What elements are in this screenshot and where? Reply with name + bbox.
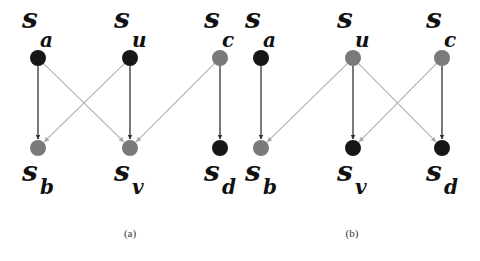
node-label-subscript-v: v — [132, 175, 144, 199]
node-label-subscript-u: u — [355, 28, 370, 52]
node-s-a — [253, 50, 269, 66]
node-label-subscript-v: v — [355, 175, 367, 199]
node-label-s-b: s — [21, 155, 38, 188]
node-label-s-d: s — [203, 155, 220, 188]
node-s-a — [30, 50, 46, 66]
node-s-d — [212, 140, 228, 156]
graph-a: sasuscsbsvsd(a) — [21, 2, 236, 240]
node-label-s-c: s — [425, 2, 442, 35]
node-s-v — [122, 140, 138, 156]
node-label-s-v: s — [336, 155, 353, 188]
node-label-s-a: s — [244, 2, 261, 35]
node-s-u — [122, 50, 138, 66]
edge-c-to-v — [136, 64, 214, 142]
node-label-subscript-a: a — [40, 28, 53, 52]
node-label-subscript-c: c — [444, 28, 456, 52]
node-s-b — [30, 140, 46, 156]
node-label-s-a: s — [21, 2, 38, 35]
node-label-subscript-u: u — [132, 28, 147, 52]
node-s-b — [253, 140, 269, 156]
node-label-s-d: s — [425, 155, 442, 188]
node-label-subscript-d: d — [222, 175, 236, 199]
node-label-subscript-a: a — [263, 28, 276, 52]
node-label-s-u: s — [113, 2, 130, 35]
node-label-subscript-d: d — [444, 175, 458, 199]
node-label-subscript-b: b — [263, 175, 277, 199]
node-label-s-u: s — [336, 2, 353, 35]
node-label-subscript-c: c — [222, 28, 234, 52]
node-s-u — [345, 50, 361, 66]
edge-u-to-b — [267, 64, 347, 142]
node-s-d — [434, 140, 450, 156]
node-label-s-c: s — [203, 2, 220, 35]
node-label-s-v: s — [113, 155, 130, 188]
node-s-c — [434, 50, 450, 66]
node-label-subscript-b: b — [40, 175, 54, 199]
node-s-v — [345, 140, 361, 156]
node-s-c — [212, 50, 228, 66]
caption-a: (a) — [124, 227, 137, 240]
node-label-s-b: s — [244, 155, 261, 188]
caption-b: (b) — [346, 227, 359, 240]
bayesian-network-diagrams: sasuscsbsvsd(a) sasuscsbsvsd(b) — [0, 0, 480, 261]
graph-b: sasuscsbsvsd(b) — [244, 2, 458, 240]
